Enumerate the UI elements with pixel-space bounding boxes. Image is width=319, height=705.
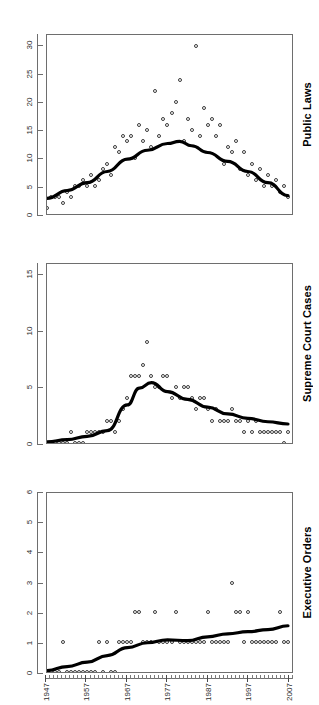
- value-axis-tick: [37, 492, 43, 493]
- value-axis-tick-label: 10: [25, 145, 34, 171]
- year-axis-minor-tick: [134, 675, 135, 679]
- value-axis-tick-label: 0: [25, 202, 34, 228]
- plot-inner: [47, 35, 292, 214]
- year-axis-minor-tick: [94, 675, 95, 679]
- plot-area: [46, 34, 293, 215]
- year-axis-minor-tick: [276, 675, 277, 679]
- year-axis-minor-tick: [158, 675, 159, 679]
- year-axis-minor-tick: [126, 675, 127, 679]
- year-axis-minor-tick: [203, 675, 204, 679]
- value-axis-tick-label: 15: [25, 261, 34, 287]
- year-axis-minor-tick: [195, 675, 196, 679]
- year-axis-minor-tick: [260, 675, 261, 679]
- year-axis-minor-tick: [49, 675, 50, 679]
- value-axis-tick: [37, 102, 43, 103]
- trend-line: [47, 493, 292, 672]
- year-axis-minor-tick: [256, 675, 257, 679]
- year-axis-minor-tick: [239, 675, 240, 679]
- year-axis-minor-tick: [81, 675, 82, 679]
- value-axis-tick-label: 5: [25, 174, 34, 200]
- year-axis-minor-tick: [280, 675, 281, 679]
- year-axis-tick-label: 1987: [204, 677, 213, 705]
- year-axis-tick: [288, 675, 289, 682]
- year-axis-minor-tick: [247, 675, 248, 679]
- value-axis-tick-label: 5: [25, 509, 34, 535]
- year-axis-minor-tick: [284, 675, 285, 679]
- year-axis-minor-tick: [114, 675, 115, 679]
- panel-title: Supreme Court Cases: [301, 229, 313, 458]
- year-axis-tick-label: 1947: [42, 677, 51, 705]
- panel-title: Executive Orders: [301, 458, 313, 687]
- year-axis-minor-tick: [150, 675, 151, 679]
- year-axis-tick: [207, 675, 208, 682]
- year-axis-minor-tick: [45, 675, 46, 679]
- year-axis-minor-tick: [199, 675, 200, 679]
- year-axis-minor-tick: [142, 675, 143, 679]
- year-axis-minor-tick: [130, 675, 131, 679]
- year-axis-minor-tick: [179, 675, 180, 679]
- year-axis-minor-tick: [215, 675, 216, 679]
- value-axis-tick-label: 5: [25, 374, 34, 400]
- year-axis-minor-tick: [171, 675, 172, 679]
- panel-title: Public Laws: [301, 0, 313, 229]
- year-axis-minor-tick: [292, 675, 293, 679]
- value-axis-tick: [37, 444, 43, 445]
- year-axis-tick: [166, 675, 167, 682]
- year-axis-tick: [86, 675, 87, 682]
- value-axis-tick: [37, 215, 43, 216]
- year-axis-minor-tick: [183, 675, 184, 679]
- year-axis-minor-tick: [118, 675, 119, 679]
- value-axis-tick-label: 4: [25, 539, 34, 565]
- value-axis-tick: [37, 552, 43, 553]
- value-axis-tick-label: 0: [25, 660, 34, 686]
- panel-public-laws: Public Laws05101520253019471957196719771…: [0, 0, 319, 229]
- year-axis-minor-tick: [207, 675, 208, 679]
- value-axis-line: [37, 263, 38, 444]
- value-axis-tick: [37, 583, 43, 584]
- value-axis-tick-label: 2: [25, 600, 34, 626]
- value-axis-tick: [37, 274, 43, 275]
- value-axis-tick-label: 30: [25, 32, 34, 58]
- year-axis-minor-tick: [223, 675, 224, 679]
- value-axis-tick-label: 10: [25, 318, 34, 344]
- year-axis-line: [46, 678, 293, 679]
- year-axis-minor-tick: [191, 675, 192, 679]
- value-axis-line: [37, 34, 38, 215]
- value-axis-tick: [37, 613, 43, 614]
- value-axis-tick-label: 20: [25, 89, 34, 115]
- year-axis-minor-tick: [175, 675, 176, 679]
- year-axis-minor-tick: [243, 675, 244, 679]
- year-axis-minor-tick: [272, 675, 273, 679]
- value-axis-tick-label: 15: [25, 117, 34, 143]
- year-axis-minor-tick: [187, 675, 188, 679]
- year-axis-minor-tick: [106, 675, 107, 679]
- value-axis-tick-label: 6: [25, 479, 34, 505]
- value-axis-tick: [37, 522, 43, 523]
- year-axis-minor-tick: [77, 675, 78, 679]
- year-axis-minor-tick: [166, 675, 167, 679]
- year-axis-minor-tick: [90, 675, 91, 679]
- year-axis-minor-tick: [122, 675, 123, 679]
- value-axis-tick-label: 3: [25, 570, 34, 596]
- year-axis-minor-tick: [227, 675, 228, 679]
- panel-executive-orders: Executive Orders012345619471957196719771…: [0, 458, 319, 687]
- value-axis-tick-label: 1: [25, 630, 34, 656]
- value-axis-tick: [37, 643, 43, 644]
- year-axis-minor-tick: [268, 675, 269, 679]
- year-axis-tick: [247, 675, 248, 682]
- value-axis-tick: [37, 387, 43, 388]
- year-axis-minor-tick: [86, 675, 87, 679]
- year-axis-minor-tick: [65, 675, 66, 679]
- value-axis-tick: [37, 130, 43, 131]
- panel-supreme-court-cases: Supreme Court Cases051015194719571967197…: [0, 229, 319, 458]
- plot-area: [46, 263, 293, 444]
- year-axis-minor-tick: [211, 675, 212, 679]
- trend-line: [47, 35, 292, 214]
- year-axis-tick-label: 1957: [83, 677, 92, 705]
- year-axis-minor-tick: [231, 675, 232, 679]
- value-axis-tick: [37, 45, 43, 46]
- plot-inner: [47, 493, 292, 672]
- value-axis-tick: [37, 331, 43, 332]
- year-axis-minor-tick: [98, 675, 99, 679]
